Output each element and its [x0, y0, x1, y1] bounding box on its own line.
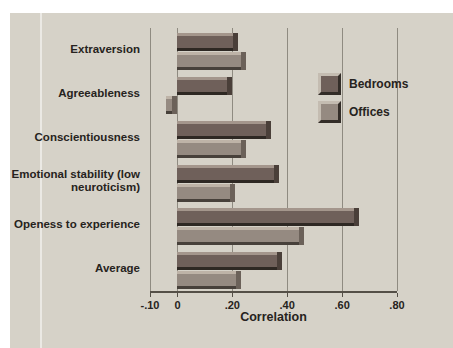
- axis-tick: [232, 293, 233, 297]
- gridline: [397, 28, 398, 291]
- category-label: Openess to experience: [10, 203, 140, 247]
- bar-offices-1: [166, 96, 177, 114]
- bedrooms-swatch: [318, 73, 341, 95]
- axis-tick: [150, 293, 151, 297]
- axis-tick: [287, 293, 288, 297]
- category-label: Agreeableness: [10, 72, 140, 116]
- legend-label: Bedrooms: [349, 77, 408, 91]
- offices-swatch: [318, 101, 341, 123]
- legend: BedroomsOffices: [318, 73, 408, 129]
- legend-label: Offices: [349, 105, 390, 119]
- axis-tick: [342, 293, 343, 297]
- axis-tick: [397, 293, 398, 297]
- bar-offices-3: [177, 184, 235, 202]
- bar-offices-4: [177, 227, 303, 245]
- gridline: [150, 28, 151, 291]
- category-label: Emotional stability (low neuroticism): [10, 160, 140, 204]
- category-label: Average: [10, 247, 140, 291]
- bar-bedrooms-1: [177, 77, 232, 95]
- legend-item-bedrooms: Bedrooms: [318, 73, 408, 95]
- bar-bedrooms-0: [177, 33, 237, 51]
- figure-panel: ExtraversionAgreeablenessConscientiousne…: [10, 13, 453, 348]
- bar-offices-2: [177, 140, 246, 158]
- gridline: [287, 28, 288, 291]
- bar-bedrooms-2: [177, 121, 270, 139]
- bar-bedrooms-4: [177, 208, 358, 226]
- category-label: Conscientiousness: [10, 116, 140, 160]
- bar-offices-0: [177, 52, 246, 70]
- gridline: [342, 28, 343, 291]
- x-axis-title: Correlation: [150, 310, 397, 324]
- category-label: Extraversion: [10, 28, 140, 72]
- bar-bedrooms-3: [177, 165, 279, 183]
- plot-area: -.100.20.40.60.80: [150, 28, 397, 293]
- axis-tick: [177, 293, 178, 297]
- bar-offices-5: [177, 271, 240, 289]
- legend-item-offices: Offices: [318, 101, 408, 123]
- bar-bedrooms-5: [177, 252, 281, 270]
